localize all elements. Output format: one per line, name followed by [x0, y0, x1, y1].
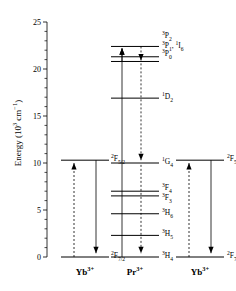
- y-axis-label-suffix: ): [13, 100, 23, 103]
- level-label-pr-g4: 1G4: [162, 158, 173, 166]
- level-label-pr-p0: 3P0: [162, 50, 172, 58]
- y-axis-tick-label: 5: [37, 206, 41, 215]
- y-axis-label: Energy (103 cm−1): [13, 73, 23, 193]
- ion-label-pr: Pr3+: [105, 268, 165, 277]
- energy-level-diagram: Energy (103 cm−1) 0510152025 2F5/22F7/23…: [0, 0, 236, 291]
- y-axis-tick-label: 25: [33, 18, 41, 27]
- level-label-yb-right-f52: 2F5/2: [227, 155, 236, 163]
- y-axis-label-exponent: 3: [11, 123, 18, 126]
- y-axis-tick-label: 20: [33, 65, 41, 74]
- pr-upconversion-arrow-head: [119, 48, 124, 55]
- y-axis-label-prefix: Energy (10: [13, 126, 23, 166]
- level-label-pr-d2: 1D2: [162, 93, 173, 101]
- level-lines: [61, 46, 224, 257]
- level-label-pr-p2: 3P2: [162, 32, 172, 40]
- diagram-canvas: 0510152025: [0, 0, 236, 291]
- pr-relax-top-arrow-head: [138, 54, 143, 61]
- y-axis-ticks: 0510152025: [33, 18, 47, 262]
- y-axis-tick-label: 10: [33, 159, 41, 168]
- y-axis-tick-label: 0: [37, 253, 41, 262]
- level-label-pr-f3: 3F3: [162, 194, 172, 202]
- y-axis-tick-label: 15: [33, 112, 41, 121]
- transition-arrows: [71, 46, 213, 257]
- level-label-pr-h5: 3H5: [162, 230, 173, 238]
- level-label-yb-right-f72: 2F7/2: [227, 252, 236, 260]
- level-label-yb-left-f52: 2F5/2: [111, 155, 125, 163]
- yb-left-absorption-arrow-head: [71, 163, 76, 170]
- yb-right-emission-arrow-head: [208, 247, 213, 254]
- yb-right-absorption-arrow-head: [186, 163, 191, 170]
- ion-label-yb-right: Yb3+: [170, 268, 230, 277]
- pr-relax-mid-arrow-head: [138, 154, 143, 161]
- yb-left-emission-arrow-head: [93, 247, 98, 254]
- level-label-yb-left-f72: 2F7/2: [111, 252, 125, 260]
- y-axis-label-container: Energy (103 cm−1): [0, 0, 24, 291]
- level-label-pr-h4: 3H4: [162, 252, 173, 260]
- y-axis-label-mid: cm: [13, 110, 23, 123]
- y-axis-label-exponent2: −1: [11, 103, 18, 110]
- level-label-pr-h6: 3H6: [162, 209, 173, 217]
- pr-relax-low-arrow-head: [138, 247, 143, 254]
